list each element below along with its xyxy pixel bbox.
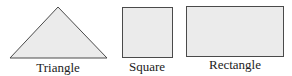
rectangle-figure: Rectangle [187,7,284,73]
square-label: Square [129,59,165,74]
rectangle-shape [187,7,284,57]
square-figure: Square [123,8,173,75]
shapes-diagram: Triangle Square Rectangle [0,0,292,76]
triangle-label: Triangle [36,60,80,75]
square-shape [123,8,173,58]
rectangle-label: Rectangle [209,57,261,72]
triangle-shape [10,7,107,58]
triangle-figure: Triangle [10,7,107,75]
